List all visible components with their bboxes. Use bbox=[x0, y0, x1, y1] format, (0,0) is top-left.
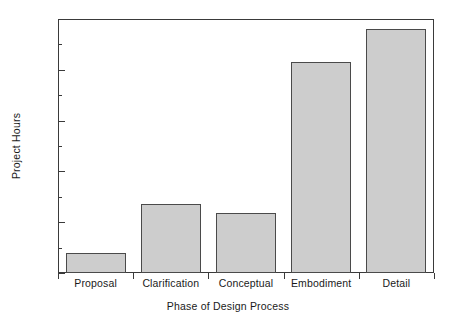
bar-proposal bbox=[66, 253, 126, 273]
y-tick-minor bbox=[58, 95, 62, 96]
x-tick bbox=[133, 273, 134, 279]
x-tick bbox=[434, 273, 435, 279]
x-tick-label-embodiment: Embodiment bbox=[291, 277, 351, 289]
bar-clarification bbox=[141, 204, 201, 273]
y-tick-major bbox=[58, 273, 65, 274]
x-tick bbox=[359, 273, 360, 279]
y-tick-major bbox=[58, 222, 65, 223]
bar-chart: 02004006008001000 ProposalClarificationC… bbox=[0, 0, 456, 324]
x-tick bbox=[58, 273, 59, 279]
y-tick-major bbox=[58, 19, 65, 20]
y-tick-minor bbox=[58, 197, 62, 198]
x-tick-label-proposal: Proposal bbox=[74, 277, 117, 289]
x-tick bbox=[284, 273, 285, 279]
x-axis-title: Phase of Design Process bbox=[0, 300, 456, 312]
x-tick-label-clarification: Clarification bbox=[142, 277, 199, 289]
x-tick-label-conceptual: Conceptual bbox=[219, 277, 274, 289]
bars-layer bbox=[58, 19, 434, 273]
x-tick bbox=[208, 273, 209, 279]
bar-conceptual bbox=[216, 213, 276, 273]
y-tick-major bbox=[58, 171, 65, 172]
x-tick-label-detail: Detail bbox=[383, 277, 411, 289]
bar-embodiment bbox=[291, 62, 351, 273]
y-tick-minor bbox=[58, 248, 62, 249]
bar-detail bbox=[366, 29, 426, 273]
y-axis-title: Project Hours bbox=[8, 19, 24, 273]
y-tick-major bbox=[58, 70, 65, 71]
y-tick-major bbox=[58, 121, 65, 122]
y-tick-minor bbox=[58, 44, 62, 45]
y-tick-minor bbox=[58, 146, 62, 147]
